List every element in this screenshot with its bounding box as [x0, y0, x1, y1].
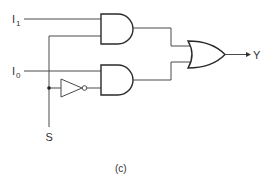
and-gate-0 [101, 65, 133, 95]
input-label-i1: I 1 [12, 13, 21, 28]
figure-caption: (c) [115, 163, 127, 174]
input-label-i0: I 0 [12, 65, 21, 80]
wire-and1-to-or [133, 28, 192, 46]
junction-dot [47, 86, 51, 90]
wire-and0-to-or [133, 62, 192, 80]
inversion-bubble [82, 86, 87, 91]
not-gate [61, 79, 87, 97]
svg-text:I: I [12, 65, 15, 77]
output-label-y: Y [253, 49, 261, 61]
svg-text:I: I [12, 13, 15, 25]
mux-circuit-diagram: I 1 I 0 Y S (c) [0, 0, 270, 180]
wire-select [49, 36, 101, 127]
select-label-s: S [46, 131, 53, 143]
svg-text:0: 0 [16, 71, 21, 80]
or-gate [188, 41, 225, 68]
and-gate-1 [101, 14, 133, 44]
output-arrow-icon [246, 52, 251, 57]
svg-text:1: 1 [16, 19, 21, 28]
